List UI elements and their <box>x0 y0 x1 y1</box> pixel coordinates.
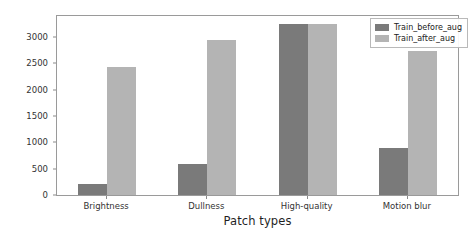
bar-train-before-aug <box>78 184 107 195</box>
bar-chart-figure: Number of samples 0500100015002000250030… <box>0 0 474 239</box>
legend-item-train-before-aug: Train_before_aug <box>375 22 462 33</box>
bar-group <box>279 16 337 195</box>
bar-train-after-aug <box>408 51 437 195</box>
bar-train-before-aug <box>279 24 308 195</box>
x-axis-ticks: BrightnessDullnessHigh-qualityMotion blu… <box>56 196 459 216</box>
y-tick-label: 3000 <box>26 32 48 42</box>
x-axis-title: Patch types <box>56 214 459 228</box>
y-tick-label: 2500 <box>26 58 48 68</box>
x-tick-mark <box>106 196 107 199</box>
y-tick-label: 2000 <box>26 85 48 95</box>
x-tick-mark <box>206 196 207 199</box>
y-axis-ticks: 050010001500200025003000 <box>0 0 56 239</box>
x-tick-label: High-quality <box>281 201 333 211</box>
x-tick-mark <box>307 196 308 199</box>
x-tick-mark <box>407 196 408 199</box>
legend-item-label: Train_after_aug <box>394 34 455 43</box>
x-tick-label: Motion blur <box>383 201 431 211</box>
y-tick-label: 1500 <box>26 111 48 121</box>
legend-swatch-icon <box>375 24 389 31</box>
bar-train-before-aug <box>379 148 408 195</box>
x-tick-label: Dullness <box>188 201 224 211</box>
y-tick-label: 500 <box>32 164 48 174</box>
bar-train-after-aug <box>107 67 136 195</box>
y-tick-label: 0 <box>43 190 48 200</box>
bar-train-after-aug <box>308 24 337 195</box>
legend-item-train-after-aug: Train_after_aug <box>375 33 462 44</box>
bar-train-before-aug <box>178 164 207 195</box>
x-tick-label: Brightness <box>83 201 128 211</box>
bar-train-after-aug <box>207 40 236 195</box>
y-tick-label: 1000 <box>26 137 48 147</box>
bar-group <box>178 16 236 195</box>
chart-legend: Train_before_aug Train_after_aug <box>370 18 468 48</box>
legend-swatch-icon <box>375 35 389 42</box>
bar-group <box>78 16 136 195</box>
legend-item-label: Train_before_aug <box>394 23 462 32</box>
